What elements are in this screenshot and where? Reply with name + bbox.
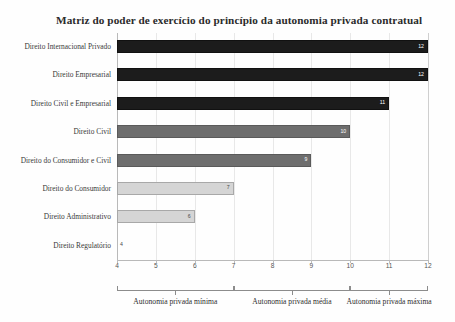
bar: 12: [117, 68, 428, 81]
x-tick-label: 4: [115, 262, 119, 269]
bar-value-label: 6: [188, 214, 191, 219]
bar-value-label: 11: [380, 101, 385, 106]
chart-figure: Matriz do poder de exercício do princípi…: [0, 0, 455, 322]
bar-value-label: 4: [120, 243, 123, 248]
zone-bracket-stem: [292, 291, 293, 295]
x-tick-label: 10: [347, 262, 354, 269]
bar-row: Direito Regulatório4: [117, 232, 428, 260]
x-tick-label: 9: [310, 262, 314, 269]
zone-bracket-stem: [389, 291, 390, 295]
zone-label: Autonomia privada mínima: [133, 297, 217, 306]
category-label: Direito Civil: [73, 125, 111, 138]
x-tick-label: 11: [386, 262, 393, 269]
bar-row: Direito Administrativo6: [117, 203, 428, 231]
bar: 7: [117, 182, 234, 195]
bar-row: Direito do Consumidor e Civil9: [117, 147, 428, 175]
x-tick-label: 6: [193, 262, 197, 269]
category-label: Direito do Consumidor: [42, 182, 111, 195]
x-axis-line: [117, 260, 428, 261]
gridline-12: [428, 33, 429, 260]
zone-bracket-stem: [175, 291, 176, 295]
bar: 6: [117, 210, 195, 223]
bar-value-label: 12: [418, 44, 424, 49]
bar: 12: [117, 40, 428, 53]
category-label: Direito Regulatório: [53, 239, 111, 252]
bar-value-label: 7: [227, 186, 230, 191]
bar-row: Direito Empresarial12: [117, 61, 428, 89]
plot-area: Direito Internacional Privado12Direito E…: [117, 33, 428, 260]
category-label: Direito Empresarial: [53, 68, 112, 81]
category-label: Direito Administrativo: [44, 210, 111, 223]
zone: Autonomia privada mínima: [117, 280, 234, 318]
category-label: Direito Internacional Privado: [24, 40, 111, 53]
bar-value-label: 9: [304, 157, 307, 162]
x-tick-label: 8: [271, 262, 275, 269]
bar-row: Direito Civil10: [117, 118, 428, 146]
zone: Autonomia privada média: [234, 280, 351, 318]
x-tick-label: 5: [154, 262, 158, 269]
bar-row: Direito do Consumidor7: [117, 175, 428, 203]
x-axis-tick-labels: 456789101112: [117, 262, 428, 274]
bar: 11: [117, 97, 389, 110]
bar-row: Direito Internacional Privado12: [117, 33, 428, 61]
bar-row: Direito Civil e Empresarial11: [117, 90, 428, 118]
category-label: Direito do Consumidor e Civil: [21, 154, 111, 167]
zone-label: Autonomia privada média: [252, 297, 331, 306]
zone: Autonomia privada máxima: [350, 280, 428, 318]
category-label: Direito Civil e Empresarial: [31, 97, 111, 110]
bar-value-label: 10: [340, 129, 346, 134]
bar: 9: [117, 154, 311, 167]
x-tick-label: 12: [424, 262, 431, 269]
zone-label: Autonomia privada máxima: [347, 297, 432, 306]
chart-title: Matriz do poder de exercício do princípi…: [56, 14, 412, 26]
x-tick-label: 7: [232, 262, 236, 269]
bar-value-label: 12: [418, 72, 424, 77]
bar: 10: [117, 125, 350, 138]
zone-bracket-group: Autonomia privada mínimaAutonomia privad…: [117, 280, 428, 318]
